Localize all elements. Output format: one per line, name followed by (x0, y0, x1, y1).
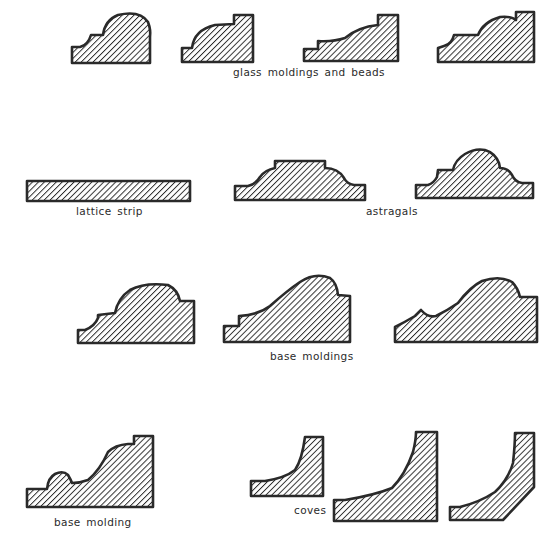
cove-profile-3 (450, 433, 534, 520)
glass-molding-profile-1 (72, 14, 150, 63)
caption-coves: coves (294, 504, 326, 516)
caption-base-moldings: base moldings (270, 350, 354, 362)
base-molding-profile-1 (78, 284, 194, 343)
base-molding-single-profile (27, 436, 153, 507)
astragal-profile-1 (235, 161, 365, 200)
molding-profiles-diagram (0, 0, 553, 542)
caption-glass-moldings-and-beads: glass moldings and beads (233, 66, 385, 78)
glass-molding-profile-2 (182, 15, 253, 62)
base-molding-profile-3 (395, 278, 537, 342)
lattice-strip-group (27, 181, 190, 201)
glass-molding-profile-4 (438, 12, 534, 62)
caption-astragals: astragals (366, 205, 418, 217)
caption-lattice-strip: lattice strip (76, 205, 143, 217)
astragals-group (235, 150, 533, 201)
lattice-strip-profile (27, 181, 190, 201)
base-moldings-group (78, 276, 537, 343)
caption-base-molding: base molding (54, 516, 132, 528)
cove-profile-1 (251, 437, 323, 496)
cove-profile-2 (334, 432, 437, 521)
base-molding-group (27, 436, 153, 507)
base-molding-profile-2 (224, 276, 350, 342)
glass-moldings-group (72, 12, 534, 63)
glass-molding-profile-3 (304, 15, 398, 61)
astragal-profile-2 (416, 150, 533, 199)
